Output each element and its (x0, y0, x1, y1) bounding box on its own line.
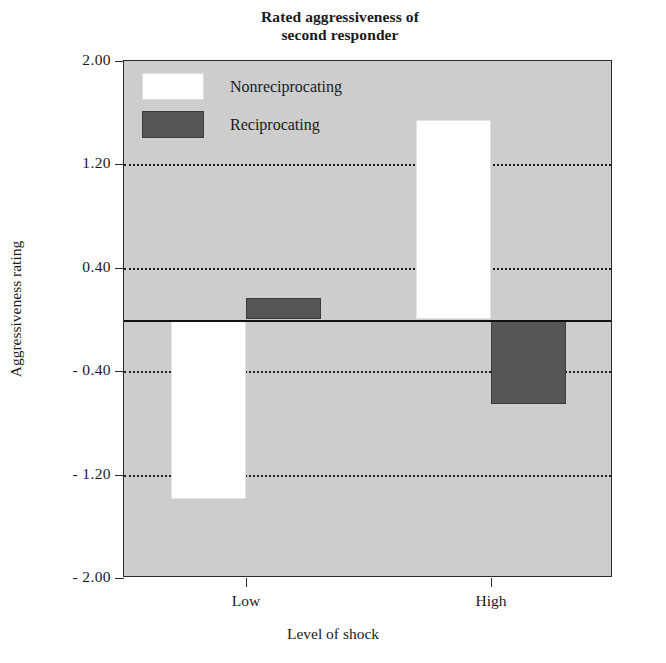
y-axis-tick-label: 2.00 (82, 51, 111, 69)
chart-figure: Rated aggressiveness of second responder… (0, 0, 666, 663)
legend-item-nonreciprocating: Nonreciprocating (142, 73, 342, 100)
y-axis-label: Aggressiveness rating (7, 189, 25, 429)
x-axis-tick (246, 578, 247, 587)
plot-area: Nonreciprocating Reciprocating LowHigh (123, 60, 612, 577)
chart-title-line-2: second responder (155, 26, 525, 44)
x-axis-tick-label-low: Low (232, 592, 260, 610)
chart-title-line-1: Rated aggressiveness of (261, 8, 419, 25)
bar-high-reciprocating (491, 320, 566, 404)
x-axis-tick (491, 578, 492, 587)
chart-legend: Nonreciprocating Reciprocating (142, 73, 342, 149)
y-axis-tick-label: - 0.40 (72, 361, 111, 379)
y-axis-tick (115, 371, 124, 372)
legend-label-nonreciprocating: Nonreciprocating (230, 78, 342, 96)
legend-label-reciprocating: Reciprocating (230, 116, 320, 134)
chart-title: Rated aggressiveness of second responder (155, 8, 525, 43)
gridline (124, 164, 611, 166)
zero-baseline (124, 320, 611, 322)
x-axis-tick-label-high: High (476, 592, 507, 610)
y-axis-tick-label: - 1.20 (72, 465, 111, 483)
y-axis-tick (115, 578, 124, 579)
y-axis-tick (115, 164, 124, 165)
y-axis-tick (115, 268, 124, 269)
legend-swatch-nonreciprocating (142, 73, 204, 100)
bar-low-nonreciprocating (171, 320, 246, 500)
legend-item-reciprocating: Reciprocating (142, 111, 342, 138)
y-axis-tick-label: 0.40 (82, 258, 111, 276)
y-axis-tick (115, 61, 124, 62)
y-axis-tick (115, 475, 124, 476)
bar-high-nonreciprocating (416, 120, 491, 319)
y-axis-tick-label: 1.20 (82, 154, 111, 172)
legend-swatch-reciprocating (142, 111, 204, 138)
bar-low-reciprocating (246, 298, 321, 320)
x-axis-label: Level of shock (0, 625, 666, 643)
y-axis-tick-label: - 2.00 (72, 568, 111, 586)
gridline (124, 268, 611, 270)
